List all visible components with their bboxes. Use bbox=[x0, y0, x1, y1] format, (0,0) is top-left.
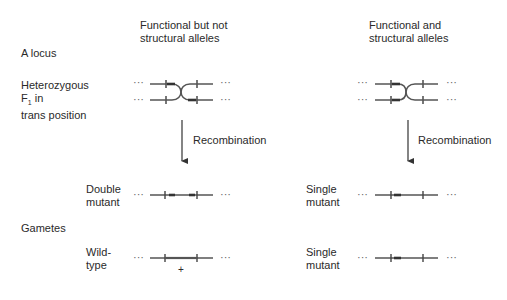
wild-type-chromosome bbox=[150, 254, 213, 262]
right-heterozygote-chromosomes bbox=[375, 80, 438, 104]
right-mutation-marks bbox=[392, 84, 400, 100]
double-mutant-chromosome bbox=[150, 191, 213, 199]
single-mutant-chromosome-1 bbox=[375, 191, 438, 199]
recombination-diagram bbox=[0, 0, 507, 300]
single-mutant-chromosome-2 bbox=[375, 254, 438, 262]
left-heterozygote-chromosomes bbox=[150, 80, 213, 104]
